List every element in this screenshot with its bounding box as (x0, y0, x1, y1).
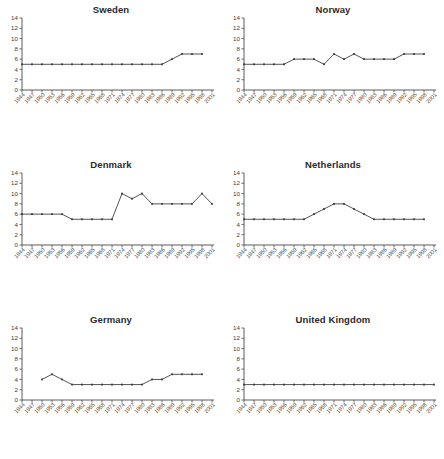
y-tick-label: 4 (15, 376, 19, 383)
y-tick-label: 12 (11, 24, 18, 31)
data-point (323, 63, 325, 65)
data-point (61, 213, 63, 215)
data-point (191, 53, 193, 55)
y-tick-label: 14 (11, 324, 18, 331)
data-point (171, 58, 173, 60)
chart-panel-netherlands: Netherlands02468101214194419471950195319… (222, 155, 444, 310)
series-line (22, 54, 202, 64)
data-point (131, 63, 133, 65)
data-point (413, 218, 415, 220)
data-point (51, 63, 53, 65)
data-point (423, 53, 425, 55)
y-tick-label: 2 (15, 231, 19, 238)
y-tick-label: 6 (237, 365, 241, 372)
data-point (201, 373, 203, 375)
data-point (181, 373, 183, 375)
chart-plot-area: 0246810121419441947195019531956195919621… (0, 14, 222, 146)
data-point (141, 193, 143, 195)
y-tick-label: 12 (233, 24, 240, 31)
data-point (423, 384, 425, 386)
series-line (22, 194, 212, 220)
data-point (323, 384, 325, 386)
data-point (51, 373, 53, 375)
chart-plot-area: 0246810121419441947195019531956195919621… (0, 169, 222, 301)
y-tick-label: 2 (15, 76, 19, 83)
chart-grid: Sweden0246810121419441947195019531956195… (0, 0, 444, 459)
data-point (313, 384, 315, 386)
data-point (343, 384, 345, 386)
y-tick-label: 2 (15, 386, 19, 393)
data-point (31, 63, 33, 65)
data-point (121, 384, 123, 386)
data-point (353, 53, 355, 55)
chart-panel-denmark: Denmark024681012141944194719501953195619… (0, 155, 222, 310)
y-tick-label: 10 (11, 190, 18, 197)
data-point (191, 373, 193, 375)
y-tick-label: 10 (233, 345, 240, 352)
data-point (383, 384, 385, 386)
data-point (71, 63, 73, 65)
data-point (373, 58, 375, 60)
data-point (181, 53, 183, 55)
data-point (413, 384, 415, 386)
data-point (403, 218, 405, 220)
data-point (121, 63, 123, 65)
y-tick-label: 14 (233, 169, 240, 176)
data-point (81, 218, 83, 220)
data-point (293, 218, 295, 220)
data-point (363, 384, 365, 386)
data-point (303, 218, 305, 220)
data-point (303, 58, 305, 60)
data-point (423, 218, 425, 220)
y-tick-label: 8 (237, 200, 241, 207)
data-point (373, 384, 375, 386)
data-point (31, 213, 33, 215)
data-point (413, 53, 415, 55)
data-point (253, 384, 255, 386)
data-point (283, 384, 285, 386)
y-tick-label: 0 (237, 86, 241, 93)
data-point (21, 63, 23, 65)
data-point (393, 218, 395, 220)
data-point (253, 63, 255, 65)
data-point (303, 384, 305, 386)
data-point (141, 384, 143, 386)
data-point (111, 218, 113, 220)
x-tick-label: 2001 (425, 91, 438, 104)
data-point (313, 58, 315, 60)
data-point (403, 53, 405, 55)
data-point (131, 384, 133, 386)
data-point (171, 203, 173, 205)
data-point (161, 203, 163, 205)
data-point (363, 213, 365, 215)
chart-panel-united-kingdom: United Kingdom02468101214194419471950195… (222, 310, 444, 459)
y-tick-label: 0 (15, 86, 19, 93)
x-tick-label: 2001 (203, 401, 216, 414)
data-point (101, 63, 103, 65)
data-point (393, 384, 395, 386)
y-tick-label: 14 (11, 14, 18, 21)
y-tick-label: 6 (15, 210, 19, 217)
chart-panel-norway: Norway0246810121419441947195019531956195… (222, 0, 444, 155)
data-point (211, 203, 213, 205)
data-point (81, 384, 83, 386)
data-point (403, 384, 405, 386)
data-point (353, 384, 355, 386)
data-point (273, 63, 275, 65)
data-point (263, 384, 265, 386)
data-point (433, 384, 435, 386)
y-tick-label: 10 (11, 35, 18, 42)
y-tick-label: 8 (15, 200, 19, 207)
chart-panel-sweden: Sweden0246810121419441947195019531956195… (0, 0, 222, 155)
data-point (333, 203, 335, 205)
x-tick-label: 2001 (203, 246, 216, 259)
data-point (21, 213, 23, 215)
data-point (283, 63, 285, 65)
data-point (243, 384, 245, 386)
data-point (61, 379, 63, 381)
y-tick-label: 6 (237, 210, 241, 217)
data-point (333, 384, 335, 386)
y-tick-label: 8 (15, 355, 19, 362)
data-point (353, 208, 355, 210)
data-point (151, 63, 153, 65)
